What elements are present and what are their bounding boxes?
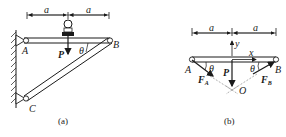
point-C-label: C xyxy=(29,103,36,114)
wall-hatch xyxy=(11,30,16,108)
force-P-label: P xyxy=(58,49,65,60)
x-axis-label: x xyxy=(248,47,254,58)
point-A-label-b: A xyxy=(184,64,192,75)
y-axis-label: y xyxy=(234,38,240,49)
angle-theta-left: θ xyxy=(209,63,214,74)
force-FB-label: FB xyxy=(260,74,272,86)
point-A-label: A xyxy=(21,45,29,56)
force-FA-label: FA xyxy=(197,74,209,86)
dim-label-right-b: a xyxy=(253,22,258,33)
caption-a: (a) xyxy=(58,116,68,126)
angle-arc-right xyxy=(258,62,259,70)
dim-label-left-b: a xyxy=(209,22,214,33)
dim-label-right: a xyxy=(86,4,91,15)
point-B-label: B xyxy=(113,39,119,50)
figure-a: a a P xyxy=(11,4,119,126)
point-O-label: O xyxy=(239,85,246,96)
angle-theta-right: θ xyxy=(250,63,255,74)
statics-diagram: a a P xyxy=(0,0,286,137)
angle-theta-label: θ xyxy=(79,45,84,56)
force-P-label-b: P xyxy=(223,67,230,78)
figure-b: a a y x FA FB P xyxy=(184,22,281,126)
pin-B xyxy=(107,38,112,43)
dimension-a-a: a a xyxy=(27,4,109,19)
caption-b: (b) xyxy=(224,116,235,126)
beam-AB xyxy=(24,38,110,43)
dim-label-left: a xyxy=(44,4,49,15)
dimension-a-a-b: a a xyxy=(192,22,276,36)
angle-arc-left xyxy=(205,62,206,70)
force-FB-arrow xyxy=(253,62,274,74)
angle-arc xyxy=(86,43,88,52)
point-B-label-b: B xyxy=(275,64,281,75)
load-hoist xyxy=(62,20,74,36)
